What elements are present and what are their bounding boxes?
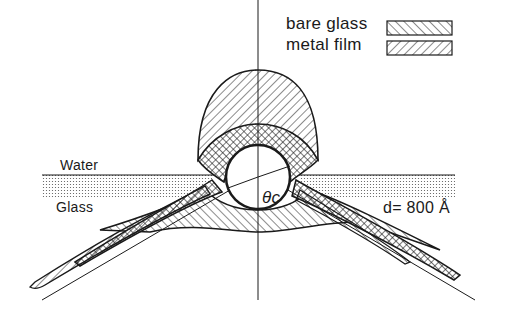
legend-label-bare-glass: bare glass <box>286 14 367 34</box>
glass-label: Glass <box>56 199 93 215</box>
contact-angle-label: θc <box>262 188 280 208</box>
film-thickness-label: d= 800 Å <box>383 199 450 217</box>
water-label: Water <box>60 157 98 173</box>
legend-swatch-bare-glass <box>387 21 452 35</box>
legend-label-metal-film: metal film <box>286 35 362 55</box>
legend-swatch-metal-film <box>387 41 452 55</box>
